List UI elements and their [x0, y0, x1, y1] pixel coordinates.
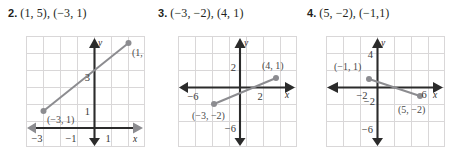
y-tick-label-4: 4 [368, 49, 374, 60]
problem-4-header: 4. (5, −2), (−1,1) [307, 6, 389, 21]
y-axis-arrow-down [89, 138, 100, 146]
point-label-neg3-neg2: (−3, −2) [192, 110, 225, 122]
problem-2-graph: y x −3 −1 1 3 1 (1, 5) (−3, 1) [26, 36, 145, 147]
problem-4-points-text: (5, −2), (−1,1) [319, 6, 389, 20]
y-tick-label-2: 2 [231, 62, 236, 73]
endpoint-dot [126, 40, 132, 46]
point-label-neg1-1: (−1, 1) [334, 61, 361, 73]
problem-3-header: 3. (−3, −2), (4, 1) [158, 6, 243, 21]
x-axis-arrow-left [27, 123, 36, 134]
x-axis-arrow-right [133, 123, 143, 134]
x-tick-label-neg6: −6 [187, 91, 198, 102]
y-tick-label-neg6: −6 [225, 123, 236, 134]
x-axis-label: x [132, 134, 138, 144]
x-axis-label: x [284, 90, 290, 100]
axes [27, 38, 143, 146]
y-tick-label-1: 1 [85, 106, 90, 117]
problem-3: 3. (−3, −2), (4, 1) [150, 0, 300, 157]
x-tick-label-neg3: −3 [31, 133, 42, 144]
endpoint-dot [41, 108, 47, 114]
problem-2-number: 2. [8, 7, 17, 19]
problem-2: 2. (1, 5), (−3, 1) [0, 0, 150, 157]
problem-4-number: 4. [307, 7, 316, 19]
line-segment-group [211, 75, 279, 107]
problem-2-points-text: (1, 5), (−3, 1) [20, 6, 86, 20]
problem-4: 4. (5, −2), (−1,1) [299, 0, 449, 157]
y-axis-label: y [97, 38, 103, 48]
grid-lines [326, 36, 445, 147]
problem-3-graph: y x −6 2 2 −6 (4, 1) (−3, −2) [178, 36, 297, 147]
problem-4-graph: y x 4 −2 −6 −2 6 (−1, 1) (5, −2) [326, 36, 445, 147]
y-axis-arrow-down [372, 138, 383, 146]
point-label-5-neg2: (5, −2) [398, 104, 425, 116]
endpoint-dot [273, 75, 279, 81]
endpoint-dot [211, 101, 217, 107]
segment [214, 78, 276, 104]
y-tick-label-3: 3 [85, 72, 90, 83]
grid-lines [26, 36, 145, 147]
point-label-4-1: (4, 1) [262, 60, 284, 72]
problem-2-header: 2. (1, 5), (−3, 1) [8, 6, 87, 21]
problem-3-points-text: (−3, −2), (4, 1) [170, 6, 243, 20]
x-tick-label-neg1: −1 [65, 133, 76, 144]
y-axis-arrow-down [235, 138, 246, 146]
x-axis-arrow-left [327, 82, 338, 93]
y-axis-label: y [243, 38, 249, 48]
point-label-neg3-1: (−3, 1) [47, 114, 74, 126]
x-axis-label: x [432, 90, 438, 100]
point-label-1-5: (1, 5) [132, 47, 145, 59]
y-axis-label: y [380, 38, 386, 48]
x-tick-label-1: 1 [105, 133, 110, 144]
x-tick-label-6: 6 [421, 89, 426, 100]
endpoint-dot [366, 76, 372, 82]
problem-3-number: 3. [158, 7, 167, 19]
x-tick-label-neg2: −2 [356, 90, 367, 101]
x-tick-label-2: 2 [257, 91, 262, 102]
y-tick-label-neg6: −6 [362, 124, 373, 135]
